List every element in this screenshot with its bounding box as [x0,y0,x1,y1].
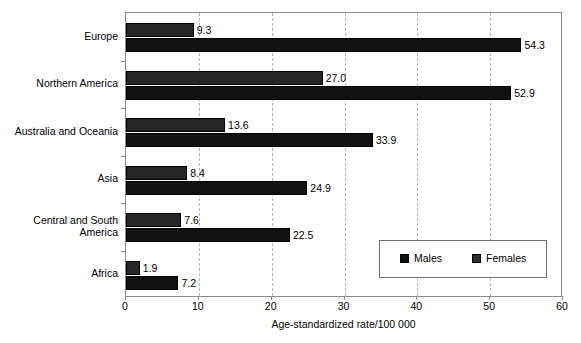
bar-females [126,261,140,275]
legend-swatch-icon [400,254,409,263]
bar-females [126,118,225,132]
category-label: Australia and Oceania [0,125,118,137]
x-tick-label: 20 [265,300,277,312]
bar-value-label: 27.0 [323,71,346,85]
gridline [272,13,273,296]
x-axis-tick-labels: 0102030405060 [125,300,562,314]
category-axis-labels: EuropeNorthern AmericaAustralia and Ocea… [0,12,118,297]
x-tick-label: 10 [192,300,204,312]
bar-females [126,23,194,37]
bar-value-label: 33.9 [373,133,396,147]
bar-males [126,133,373,147]
category-label: Northern America [0,77,118,89]
category-tick [121,251,126,252]
bar-value-label: 7.6 [181,213,199,227]
bar-males [126,38,521,52]
bar-value-label: 52.9 [511,86,534,100]
bar-value-label: 1.9 [140,261,158,275]
category-label: Asia [0,172,118,184]
gridline [199,13,200,296]
bar-males [126,276,178,290]
bar-value-label: 24.9 [307,181,330,195]
legend-swatch-icon [472,254,481,263]
category-label: Europe [0,30,118,42]
category-tick [121,61,126,62]
x-tick-label: 0 [122,300,128,312]
category-label: Africa [0,267,118,279]
category-tick [121,108,126,109]
category-label: Central and South America [0,214,118,238]
bar-females [126,213,181,227]
bar-males [126,228,290,242]
bar-females [126,71,323,85]
x-axis-title: Age-standardized rate/100 000 [125,318,562,330]
bar-chart: EuropeNorthern AmericaAustralia and Ocea… [0,0,581,343]
gridline [345,13,346,296]
category-tick [121,156,126,157]
x-tick-label: 30 [338,300,350,312]
bar-value-label: 54.3 [521,38,544,52]
x-tick-label: 60 [556,300,568,312]
legend-item-females[interactable]: Females [472,252,526,264]
bar-males [126,181,307,195]
x-tick-label: 50 [483,300,495,312]
bar-value-label: 13.6 [225,118,248,132]
bar-value-label: 7.2 [178,276,196,290]
bar-value-label: 8.4 [187,166,205,180]
legend-label: Females [486,252,526,264]
bar-value-label: 9.3 [194,23,212,37]
category-tick [121,203,126,204]
x-tick-label: 40 [410,300,422,312]
legend-label: Males [414,252,442,264]
bar-value-label: 22.5 [290,228,313,242]
legend-item-males[interactable]: Males [400,252,442,264]
bar-females [126,166,187,180]
bar-males [126,86,511,100]
chart-legend: MalesFemales [379,240,547,278]
